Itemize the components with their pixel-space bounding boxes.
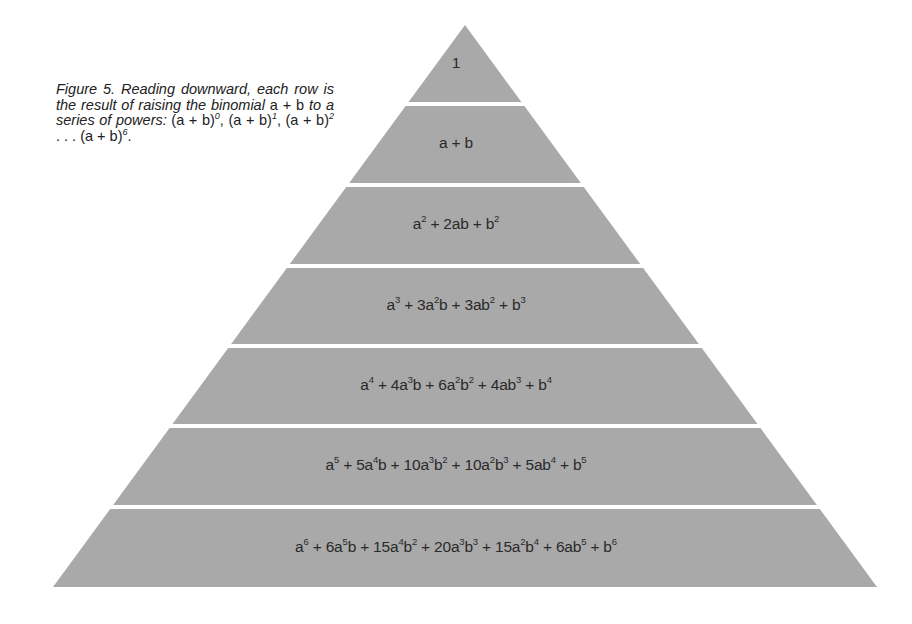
- row-expression-power-3: a3 + 3a2b + 3ab2 + b3: [0, 296, 912, 314]
- row-expression-power-4: a4 + 4a3b + 6a2b2 + 4ab3 + b4: [0, 376, 912, 394]
- row-expression-power-1: a + b: [0, 134, 912, 152]
- row-expression-power-6: a6 + 6a5b + 15a4b2 + 20a3b3 + 15a2b4 + 6…: [0, 538, 912, 556]
- row-expression-power-2: a2 + 2ab + b2: [0, 215, 912, 233]
- row-expression-power-5: a5 + 5a4b + 10a3b2 + 10a2b3 + 5ab4 + b5: [0, 456, 912, 474]
- row-expression-power-0: 1: [0, 54, 912, 72]
